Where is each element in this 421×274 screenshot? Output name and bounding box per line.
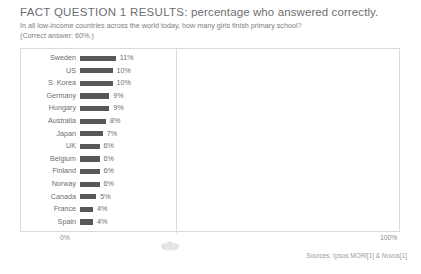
- bar-value-label: 8%: [110, 115, 120, 128]
- page-title-strong: FACT QUESTION 1 RESULTS:: [20, 6, 188, 18]
- bar-track: 6%: [80, 153, 401, 166]
- page-title-rest: percentage who answered correctly.: [188, 6, 379, 18]
- bar: [80, 68, 113, 73]
- bar-row-label: Japan: [21, 128, 80, 141]
- bar: [80, 106, 109, 111]
- bar-row: UK6%: [21, 140, 401, 153]
- question-text: In all low-income countries across the w…: [20, 21, 412, 31]
- bar-track: 4%: [80, 203, 401, 216]
- bar-row-label: Sweden: [21, 52, 80, 65]
- bar-row-label: US: [21, 65, 80, 78]
- bar-row: US10%: [21, 65, 401, 78]
- bar-row: S. Korea10%: [21, 77, 401, 90]
- bar-row-label: Finland: [21, 165, 80, 178]
- bar-track: 9%: [80, 102, 401, 115]
- bar-track: 5%: [80, 191, 401, 204]
- bar-track: 11%: [80, 52, 401, 65]
- bar: [80, 144, 100, 149]
- bar-value-label: 10%: [117, 65, 131, 78]
- bar-value-label: 6%: [104, 153, 114, 166]
- bar-row-label: France: [21, 203, 80, 216]
- axis-label-min: 0%: [60, 234, 70, 241]
- bar-row: Sweden11%: [21, 52, 401, 65]
- bar-row: France4%: [21, 203, 401, 216]
- bar: [80, 169, 100, 174]
- bar-track: 7%: [80, 128, 401, 141]
- bar-row-label: UK: [21, 140, 80, 153]
- bar: [80, 156, 100, 161]
- bar-row: Japan7%: [21, 128, 401, 141]
- bar-row-label: Canada: [21, 191, 80, 204]
- bar-row: Australia8%: [21, 115, 401, 128]
- bar-row-label: Hungary: [21, 102, 80, 115]
- bar-row: Spain4%: [21, 216, 401, 229]
- bar-row: Norway6%: [21, 178, 401, 191]
- bar-track: 8%: [80, 115, 401, 128]
- bar-row-label: S. Korea: [21, 77, 80, 90]
- bar: [80, 119, 106, 124]
- bar-row: Belgium6%: [21, 153, 401, 166]
- bar-row-label: Australia: [21, 115, 80, 128]
- bar: [80, 194, 96, 199]
- bar-value-label: 4%: [97, 203, 107, 216]
- bar-row-label: Belgium: [21, 153, 80, 166]
- bar-value-label: 4%: [97, 216, 107, 229]
- bar-value-label: 6%: [104, 140, 114, 153]
- bar-rows: Sweden11%US10%S. Korea10%Germany9%Hungar…: [21, 52, 401, 228]
- bar: [80, 56, 116, 61]
- bar: [80, 182, 100, 187]
- page-title: FACT QUESTION 1 RESULTS: percentage who …: [20, 6, 412, 19]
- bar-value-label: 10%: [117, 77, 131, 90]
- bar-track: 9%: [80, 90, 401, 103]
- bar: [80, 131, 103, 136]
- globe-watermark-icon: [158, 239, 182, 252]
- bar-row-label: Spain: [21, 216, 80, 229]
- bar-track: 6%: [80, 140, 401, 153]
- bar: [80, 219, 93, 224]
- bar-value-label: 7%: [107, 128, 117, 141]
- bar: [80, 93, 109, 98]
- bar: [80, 81, 113, 86]
- bar-track: 6%: [80, 178, 401, 191]
- bar-row: Hungary9%: [21, 102, 401, 115]
- bar: [80, 207, 93, 212]
- source-attribution: Sources: Ipsos MORI[1] & Novus[1]: [306, 252, 407, 259]
- chart-header: FACT QUESTION 1 RESULTS: percentage who …: [20, 6, 412, 40]
- bar-value-label: 11%: [120, 52, 134, 65]
- bar-row: Finland6%: [21, 165, 401, 178]
- bar-track: 6%: [80, 165, 401, 178]
- bar-value-label: 5%: [100, 191, 110, 204]
- bar-row: Germany9%: [21, 90, 401, 103]
- bar-track: 10%: [80, 65, 401, 78]
- bar-track: 10%: [80, 77, 401, 90]
- bar-value-label: 6%: [104, 178, 114, 191]
- bar-value-label: 6%: [104, 165, 114, 178]
- bar-track: 4%: [80, 216, 401, 229]
- bar-row-label: Norway: [21, 178, 80, 191]
- axis-label-max: 100%: [380, 234, 397, 241]
- chart-frame: Sweden11%US10%S. Korea10%Germany9%Hungar…: [20, 48, 400, 232]
- correct-answer-note: (Correct answer: 60%.): [20, 31, 412, 41]
- bar-row-label: Germany: [21, 90, 80, 103]
- chart-page: FACT QUESTION 1 RESULTS: percentage who …: [0, 0, 421, 274]
- bar-row: Canada5%: [21, 191, 401, 204]
- bar-value-label: 9%: [113, 90, 123, 103]
- bar-value-label: 9%: [113, 102, 123, 115]
